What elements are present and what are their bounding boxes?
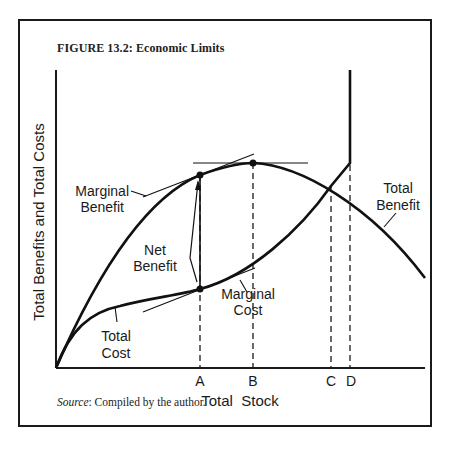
total-cost-curve [56,70,350,368]
label-marginal-benefit-line1: Marginal [75,183,129,199]
label-marginal-cost-line1: Marginal [221,286,275,302]
point-a-cost [197,286,204,293]
leader-marginal-benefit [131,191,146,196]
tick-a: A [195,373,205,389]
label-total-cost-line2: Cost [102,345,131,361]
label-net-benefit-line1: Net [144,242,166,258]
leader-total-cost [115,307,117,322]
point-b-peak [250,160,257,167]
tick-d: D [346,373,356,389]
leader-total-benefit [384,213,396,227]
figure-source: Source: Compiled by the author. [57,396,206,408]
tick-c: C [326,373,336,389]
source-label: Source [57,396,89,408]
point-a-benefit [197,172,204,179]
label-total-benefit-line1: Total [383,180,413,196]
label-marginal-cost-line2: Cost [234,302,263,318]
label-marginal-benefit-line2: Benefit [80,199,124,215]
tick-b: B [248,373,257,389]
label-net-benefit-line2: Benefit [133,258,177,274]
label-total-cost-line1: Total [101,328,131,344]
source-text: : Compiled by the author. [89,396,206,408]
label-total-benefit-line2: Benefit [376,197,420,213]
y-axis-title: Total Benefits and Total Costs [30,123,47,320]
economic-limits-chart: Marginal Benefit Net Benefit Marginal Co… [0,0,450,461]
net-benefit-pointer [190,182,198,282]
x-axis-title: Total Stock [201,392,279,409]
dashed-guides [200,163,350,368]
